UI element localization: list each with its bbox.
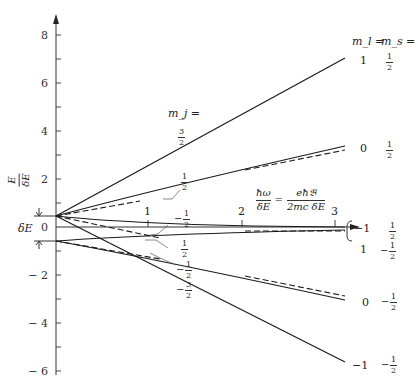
ms-value: 12 — [386, 141, 393, 160]
formula-lhs-den: δE — [257, 202, 270, 213]
mj-header: m_j = — [168, 108, 200, 119]
y-tick-neg2: − 2 — [26, 269, 48, 282]
x-axis-formula: ħω δE = eħ𝔅 2mc δE — [256, 188, 325, 212]
ms-value: 12 — [390, 293, 397, 312]
ms-num: 1 — [390, 242, 395, 250]
ms-den: 2 — [391, 367, 396, 375]
mj-den: 2 — [179, 139, 184, 147]
formula-eq: = — [275, 195, 283, 205]
mj-den: 2 — [182, 184, 187, 192]
ms-den: 2 — [390, 233, 395, 241]
mj-num: 1 — [184, 210, 189, 218]
mj-den: 2 — [182, 251, 187, 259]
mj-den: 2 — [186, 272, 191, 280]
y-tick-6: 6 — [26, 77, 48, 90]
mj-label-1-2-lower: 12 — [181, 240, 188, 259]
ms-num: 1 — [391, 293, 396, 301]
x-tick-2: 2 — [238, 206, 245, 217]
x-tick-1: 1 — [144, 206, 151, 217]
ms-num: 1 — [390, 222, 395, 230]
y-axis-label-num: E — [7, 176, 18, 183]
ms-den: 2 — [390, 253, 395, 261]
formula-rhs-den: 2mc δE — [287, 202, 325, 213]
degenerate-brace — [347, 221, 352, 241]
line-mj-1-2-lower — [56, 230, 345, 241]
y-tick-neg6: − 6 — [26, 365, 48, 378]
ms-den: 2 — [387, 152, 392, 160]
mj-num: 1 — [182, 240, 187, 248]
mj-den: 2 — [184, 221, 189, 229]
y-axis-label: E δE — [7, 173, 31, 186]
ms-den: 2 — [391, 304, 396, 312]
ml-value: −1 — [354, 223, 370, 234]
mj-num: 3 — [186, 281, 191, 289]
ml-value: 0 — [362, 297, 369, 308]
mj-num: 3 — [179, 128, 184, 136]
mj-label-neg-3-2: 32 — [185, 281, 192, 300]
mj-label-neg-1-2-lower: 12 — [185, 261, 192, 280]
ml-value: 0 — [360, 143, 367, 154]
formula-lhs-num: ħω — [256, 188, 271, 199]
line-mj-neg-1-2-lower — [56, 241, 345, 300]
ms-value: 12 — [386, 53, 393, 72]
mj-den: 2 — [186, 292, 191, 300]
ms-num: 1 — [387, 53, 392, 61]
y-tick-4: 4 — [26, 125, 48, 138]
line-mj-neg-1-2-upper — [56, 216, 345, 227]
ms-header: m_s = — [381, 36, 415, 47]
mj-num: 1 — [186, 261, 191, 269]
dashed-asymptotes — [56, 150, 345, 296]
ms-value: 12 — [389, 242, 396, 261]
mj-num: 1 — [182, 173, 187, 181]
ml-value: 1 — [360, 244, 367, 255]
mj-label-3-2: 32 — [178, 128, 185, 147]
delta-e-label: δE — [18, 223, 33, 234]
y-tick-neg4: − 4 — [26, 317, 48, 330]
ms-value: 12 — [390, 356, 397, 375]
mj-label-1-2-upper: 12 — [181, 173, 188, 192]
mj-label-neg-1-2-upper: 12 — [183, 210, 190, 229]
ml-value: −1 — [352, 360, 368, 371]
formula-rhs-num: eħ𝔅 — [296, 188, 315, 199]
energy-level-diagram — [0, 0, 418, 390]
y-axis-arrow-icon — [53, 14, 59, 24]
y-tick-8: 8 — [26, 29, 48, 42]
x-tick-3: 3 — [331, 206, 338, 217]
ms-value: 12 — [389, 222, 396, 241]
ml-value: 1 — [360, 55, 367, 66]
y-axis — [53, 14, 61, 375]
ms-den: 2 — [387, 64, 392, 72]
y-axis-label-den: δE — [20, 173, 31, 186]
ms-num: 1 — [391, 356, 396, 364]
ms-num: 1 — [387, 141, 392, 149]
ml-header: m_l = — [352, 36, 384, 47]
